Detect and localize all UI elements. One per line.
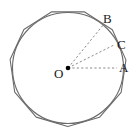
label-point-a: A — [119, 61, 128, 74]
label-point-c: C — [117, 38, 126, 51]
radius-OC — [68, 45, 114, 68]
label-point-o: O — [54, 67, 63, 80]
geometry-figure: B C A O — [0, 0, 140, 133]
label-point-b: B — [103, 12, 112, 25]
radius-OB — [68, 24, 104, 68]
center-point-dot — [66, 66, 71, 71]
